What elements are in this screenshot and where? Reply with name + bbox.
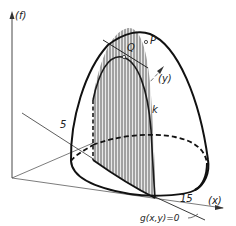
curve-k-label: k: [152, 104, 159, 115]
y-tick-label: 5: [60, 119, 66, 130]
y-axis-label: (y): [158, 73, 172, 84]
x-axis-label: (x): [208, 195, 222, 206]
constraint-label: g(x,y)=0: [140, 213, 180, 223]
f-axis-label: (f): [15, 10, 26, 21]
y-tick-line: [22, 113, 95, 160]
surface-diagram: (f) (x) (y) 5 15: [0, 0, 236, 226]
point-q: [122, 55, 125, 58]
point-p-label: P: [150, 35, 157, 46]
point-p: [144, 40, 147, 43]
point-q-label: Q: [127, 42, 135, 53]
f-axis: [10, 11, 15, 178]
